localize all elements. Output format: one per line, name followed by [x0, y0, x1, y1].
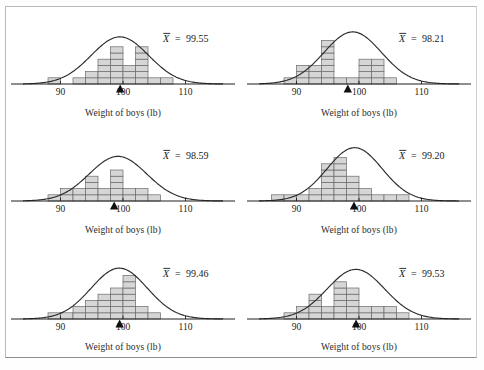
- histogram-cell: [322, 78, 335, 84]
- histogram-cell: [359, 78, 372, 84]
- mean-symbol: X: [162, 268, 170, 279]
- equals-sign: =: [175, 268, 181, 279]
- histogram-cell: [73, 189, 86, 195]
- histogram-bars: [284, 41, 397, 84]
- histogram-cell: [111, 53, 124, 59]
- histogram-cell: [111, 170, 124, 176]
- histogram-cell: [111, 183, 124, 189]
- x-axis-tick-label: 90: [292, 87, 302, 97]
- x-axis-tick-label: 90: [56, 322, 66, 332]
- histogram-cell: [136, 189, 149, 195]
- histogram-cell: [297, 78, 310, 84]
- mean-annotation: X=99.53: [398, 268, 445, 279]
- histogram-cell: [359, 65, 372, 71]
- mean-symbol: X: [398, 150, 406, 161]
- histogram-cell: [347, 189, 360, 195]
- histogram-cell: [309, 72, 322, 78]
- mean-annotation: X=99.55: [162, 33, 209, 44]
- histogram-cell: [148, 78, 161, 84]
- histogram-cell: [111, 300, 124, 306]
- mean-annotation: X=98.59: [162, 150, 209, 161]
- histogram-cell: [334, 164, 347, 170]
- histogram-cell: [86, 195, 99, 201]
- histogram-cell: [73, 195, 86, 201]
- histogram-cell: [384, 78, 397, 84]
- histogram-cell: [359, 195, 372, 201]
- histogram-cell: [372, 59, 385, 65]
- histogram-cell: [136, 53, 149, 59]
- histogram-cell: [334, 300, 347, 306]
- histogram-cell: [334, 281, 347, 287]
- histogram-cell: [148, 195, 161, 201]
- histogram-cell: [111, 312, 124, 318]
- panel-5-plot-area: 90100110X=99.46: [5, 241, 241, 358]
- mean-value: 98.59: [186, 150, 209, 161]
- histogram-cell: [347, 183, 360, 189]
- histogram-cell: [334, 288, 347, 294]
- histogram-bars: [272, 158, 410, 201]
- panel-3-plot-area: 90100110X=98.59: [5, 123, 241, 240]
- histogram-cell: [359, 312, 372, 318]
- x-axis-tick-label: 90: [56, 204, 66, 214]
- histogram-cell: [98, 72, 111, 78]
- x-axis-tick-label: 110: [179, 204, 193, 214]
- histogram-cell: [334, 78, 347, 84]
- histogram-cell: [322, 164, 335, 170]
- histogram-cell: [309, 195, 322, 201]
- histogram-cell: [98, 300, 111, 306]
- histogram-cell: [372, 312, 385, 318]
- histogram-cell: [111, 47, 124, 53]
- histogram-cell: [98, 65, 111, 71]
- histogram-cell: [334, 312, 347, 318]
- equals-sign: =: [175, 150, 181, 161]
- histogram-cell: [322, 189, 335, 195]
- histogram-cell: [359, 72, 372, 78]
- histogram-cell: [347, 300, 360, 306]
- histogram-cell: [397, 195, 410, 201]
- histogram-panel-5: 90100110X=99.46 Weight of boys (lb): [5, 241, 241, 358]
- mean-value: 99.53: [422, 268, 445, 279]
- histogram-bars: [48, 47, 173, 84]
- x-axis-tick-label: 110: [179, 322, 193, 332]
- histogram-cell: [309, 78, 322, 84]
- panel-2-plot-area: 90100110X=98.21: [241, 6, 477, 123]
- histogram-cell: [111, 177, 124, 183]
- histogram-cell: [334, 189, 347, 195]
- panel-1-plot-area: 90100110X=99.55: [5, 6, 241, 123]
- histogram-cell: [136, 78, 149, 84]
- x-axis-tick-label: 110: [415, 87, 429, 97]
- mean-value: 98.21: [422, 33, 445, 44]
- x-axis-tick-label: 110: [415, 204, 429, 214]
- histogram-cell: [136, 195, 149, 201]
- histogram-cell: [86, 306, 99, 312]
- histogram-cell: [359, 189, 372, 195]
- mean-symbol: X: [162, 33, 170, 44]
- histogram-cell: [347, 294, 360, 300]
- x-axis-caption-6: Weight of boys (lb): [241, 342, 477, 352]
- histogram-cell: [322, 312, 335, 318]
- histogram-cell: [111, 59, 124, 65]
- histogram-cell: [61, 312, 74, 318]
- histogram-cell: [86, 78, 99, 84]
- panel-6-plot-area: 90100110X=99.53: [241, 241, 477, 358]
- histogram-cell: [123, 288, 136, 294]
- x-axis-caption-1: Weight of boys (lb): [5, 108, 241, 118]
- histogram-cell: [347, 306, 360, 312]
- mean-annotation: X=99.20: [398, 150, 445, 161]
- histogram-cell: [334, 183, 347, 189]
- histogram-cell: [372, 306, 385, 312]
- histogram-cell: [347, 195, 360, 201]
- histogram-cell: [359, 59, 372, 65]
- equals-sign: =: [411, 150, 417, 161]
- x-axis-tick-label: 110: [179, 87, 193, 97]
- histogram-cell: [136, 65, 149, 71]
- histogram-cell: [123, 189, 136, 195]
- histogram-cell: [372, 78, 385, 84]
- histogram-cell: [98, 294, 111, 300]
- panel-4-plot-area: 90100110X=99.20: [241, 123, 477, 240]
- mean-symbol: X: [398, 268, 406, 279]
- histogram-cell: [73, 312, 86, 318]
- mean-annotation: X=99.46: [162, 268, 209, 279]
- histogram-bars: [48, 170, 161, 201]
- histogram-cell: [347, 312, 360, 318]
